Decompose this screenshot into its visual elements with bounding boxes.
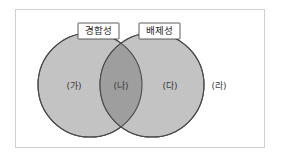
callout-rivalry-label: 경합성 [85, 25, 112, 36]
callout-rivalry: 경합성 [78, 23, 119, 39]
figure-root: (가) (나) (다) (라) 경합성 배제성 [0, 0, 282, 158]
callout-excludability: 배제성 [139, 23, 180, 39]
callout-excludability-label: 배제성 [146, 25, 173, 36]
region-label-b: (나) [113, 81, 128, 91]
region-label-c: (다) [162, 81, 177, 91]
venn-diagram-canvas: (가) (나) (다) (라) 경합성 배제성 [0, 0, 282, 158]
region-label-a: (가) [66, 81, 81, 91]
region-label-d: (라) [211, 81, 226, 91]
